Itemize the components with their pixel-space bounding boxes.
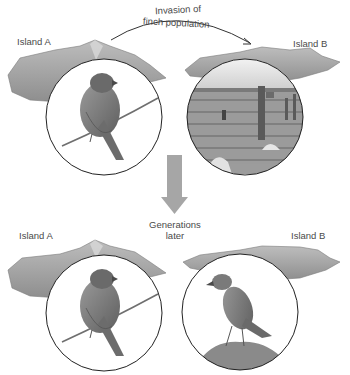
island-b-bottom-label: Island B xyxy=(291,230,325,241)
finch-inset-bottom-left xyxy=(46,255,162,371)
landscape-inset-top-right xyxy=(187,59,303,175)
finch-inset-bottom-right xyxy=(182,254,298,372)
generations-down-arrow xyxy=(161,155,188,214)
generations-later-label: Generations later xyxy=(140,219,210,241)
island-b-top-label: Island B xyxy=(293,38,327,49)
island-a-top-label: Island A xyxy=(17,36,51,47)
generations-label-line2: later xyxy=(140,230,210,241)
generations-label-line1: Generations xyxy=(140,219,210,230)
island-a-bottom-label: Island A xyxy=(19,230,53,241)
diagram-canvas xyxy=(0,0,350,375)
finch-inset-top-left xyxy=(46,59,162,175)
